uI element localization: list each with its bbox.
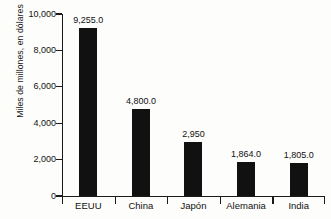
- bar: [132, 109, 150, 196]
- y-axis-tick-label: 6,000: [10, 82, 56, 91]
- y-axis-tick-label: 8,000: [10, 46, 56, 55]
- bar-group: 1,805.0: [272, 14, 325, 196]
- bar-group: 2,950: [167, 14, 220, 196]
- y-axis-tick-mark: [56, 123, 62, 124]
- bar-value-label: 4,800.0: [126, 97, 156, 106]
- x-axis-edge-tick: [324, 197, 325, 204]
- x-axis-tick-mark: [220, 197, 221, 204]
- y-axis-tick-mark: [56, 195, 62, 196]
- x-axis-edge-tick: [62, 197, 63, 204]
- x-axis-category-label: EEUU: [62, 197, 115, 213]
- y-axis-tick-mark: [56, 86, 62, 87]
- y-axis-tick-label: 4,000: [10, 119, 56, 128]
- x-axis-tick-mark: [272, 197, 273, 204]
- y-axis-tick-mark: [56, 50, 62, 51]
- x-axis-tick-mark: [115, 197, 116, 204]
- plot-area: 9,255.04,800.02,9501,864.01,805.0: [62, 14, 325, 196]
- bar: [184, 142, 202, 196]
- bar: [237, 162, 255, 196]
- bar: [79, 28, 97, 196]
- bar-group: 9,255.0: [62, 14, 115, 196]
- y-axis-tick-mark: [56, 13, 62, 14]
- y-axis-tick-label: 0: [10, 192, 56, 201]
- bar-value-label: 9,255.0: [73, 16, 103, 25]
- bar: [290, 163, 308, 196]
- bar-group: 4,800.0: [115, 14, 168, 196]
- x-axis-category-label: Japón: [167, 197, 220, 213]
- bar-chart: Miles de millones, en dólares 02,0004,00…: [0, 0, 331, 219]
- x-axis-tick-mark: [167, 197, 168, 204]
- y-axis-tick-label: 2,000: [10, 155, 56, 164]
- y-axis-tick-mark: [56, 159, 62, 160]
- x-axis-category-label: China: [115, 197, 168, 213]
- bar-value-label: 1,864.0: [231, 150, 261, 159]
- y-axis-tick-label: 10,000: [10, 10, 56, 19]
- bar-group: 1,864.0: [220, 14, 273, 196]
- y-axis-tick-labels: 02,0004,0006,0008,00010,000: [10, 0, 56, 219]
- x-axis-category-band: EEUUChinaJapónAlemaniaIndia: [62, 197, 325, 213]
- x-axis-category-label: Alemania: [220, 197, 273, 213]
- bar-value-label: 2,950: [182, 130, 205, 139]
- bar-value-label: 1,805.0: [284, 151, 314, 160]
- x-axis-category-label: India: [272, 197, 325, 213]
